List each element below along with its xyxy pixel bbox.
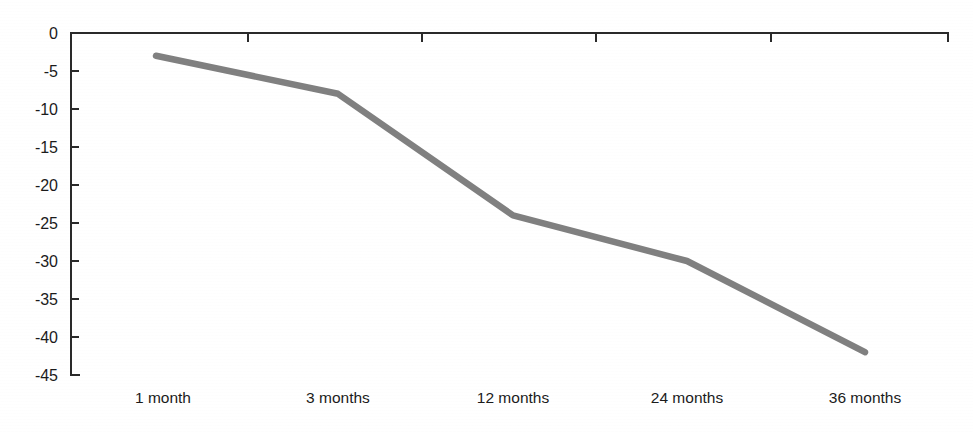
data-series-group — [156, 56, 865, 352]
y-axis-tick-label: -25 — [35, 215, 58, 232]
y-axis-tick-label: -5 — [44, 63, 58, 80]
y-axis-tick-label: -10 — [35, 101, 58, 118]
y-axis-tick-marks — [71, 71, 79, 337]
chart-canvas: 0-5-10-15-20-25-30-35-40-45 1 month3 mon… — [0, 0, 973, 432]
y-axis-line — [71, 33, 80, 375]
y-axis-tick-label: 0 — [49, 25, 58, 42]
x-axis-tick-labels: 1 month3 months12 months24 months36 mont… — [135, 389, 901, 406]
x-axis-tick-label: 24 months — [651, 389, 724, 406]
data-series-line — [156, 56, 865, 352]
x-axis: 1 month3 months12 months24 months36 mont… — [71, 33, 948, 406]
x-axis-tick-label: 36 months — [829, 389, 902, 406]
y-axis-tick-label: -35 — [35, 291, 58, 308]
x-axis-zero-line — [71, 33, 948, 42]
x-axis-tick-label: 12 months — [477, 389, 550, 406]
x-axis-tick-label: 3 months — [306, 389, 370, 406]
y-axis: 0-5-10-15-20-25-30-35-40-45 — [35, 25, 80, 384]
y-axis-tick-label: -15 — [35, 139, 58, 156]
y-axis-tick-labels: 0-5-10-15-20-25-30-35-40-45 — [35, 25, 58, 384]
line-chart-figure: 0-5-10-15-20-25-30-35-40-45 1 month3 mon… — [0, 0, 973, 432]
y-axis-tick-label: -40 — [35, 329, 58, 346]
y-axis-tick-label: -20 — [35, 177, 58, 194]
y-axis-tick-label: -45 — [35, 367, 58, 384]
x-axis-tick-label: 1 month — [135, 389, 191, 406]
y-axis-tick-label: -30 — [35, 253, 58, 270]
x-axis-tick-marks — [248, 33, 771, 42]
